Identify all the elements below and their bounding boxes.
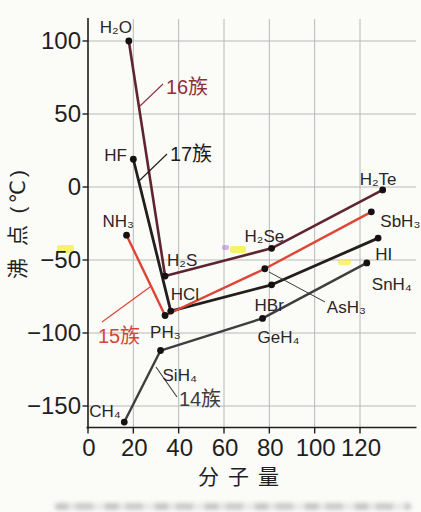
data-point-ch4 bbox=[121, 419, 128, 426]
y-tick-label--100: −100 bbox=[27, 319, 81, 346]
y-tick-label--50: −50 bbox=[40, 246, 81, 273]
group-15-leader bbox=[102, 287, 150, 322]
x-tick-label-80: 80 bbox=[257, 434, 284, 461]
group-16-leader bbox=[140, 84, 163, 106]
point-label-ash3: AsH₃ bbox=[327, 298, 366, 317]
y-tick-label-100: 100 bbox=[41, 27, 81, 54]
textbook-figure-page: 16族17族15族14族CH₄SiH₄GeH₄SnH₄NH₃PH₃AsH₃SbH… bbox=[0, 0, 421, 512]
data-point-ash3 bbox=[261, 265, 268, 272]
data-point-geh4 bbox=[259, 315, 266, 322]
point-label-geh4: GeH₄ bbox=[258, 328, 300, 347]
axes: 100500−50−100−150020406080100120 bbox=[27, 18, 417, 461]
point-label-h2te: H₂Te bbox=[360, 170, 397, 189]
data-point-hbr bbox=[268, 281, 275, 288]
y-tick-label--150: −150 bbox=[27, 392, 81, 419]
point-label-hbr: HBr bbox=[255, 296, 285, 315]
point-label-sbh3: SbH₃ bbox=[380, 212, 420, 231]
group-16-label: 16族 bbox=[166, 76, 208, 98]
scan-artifacts bbox=[57, 245, 351, 265]
point-label-h2s: H₂S bbox=[167, 251, 197, 270]
y-tick-label-0: 0 bbox=[68, 173, 81, 200]
x-tick-label-0: 0 bbox=[82, 434, 95, 461]
data-point-ph3 bbox=[162, 312, 169, 319]
group-17-leader bbox=[139, 154, 167, 181]
y-axis-title: 沸 点 (℃) bbox=[6, 167, 29, 279]
group-15-label: 15族 bbox=[98, 325, 140, 347]
data-point-nh3 bbox=[123, 232, 130, 239]
x-tick-label-100: 100 bbox=[296, 434, 336, 461]
point-label-snh4: SnH₄ bbox=[372, 275, 412, 294]
point-label-ph3: PH₃ bbox=[150, 323, 181, 342]
point-label-sih4: SiH₄ bbox=[163, 366, 197, 385]
grid-lines bbox=[88, 19, 416, 428]
cropped-caption-band bbox=[55, 503, 411, 510]
x-axis-title: 分子量 bbox=[198, 465, 288, 488]
group-17-label: 17族 bbox=[170, 143, 212, 165]
boiling-point-vs-molecular-weight-chart: 16族17族15族14族CH₄SiH₄GeH₄SnH₄NH₃PH₃AsH₃SbH… bbox=[0, 0, 421, 512]
point-label-h2se: H₂Se bbox=[245, 227, 285, 246]
x-tick-label-60: 60 bbox=[212, 434, 239, 461]
data-point-h2s bbox=[162, 273, 169, 280]
x-tick-label-120: 120 bbox=[341, 434, 381, 461]
data-point-sih4 bbox=[157, 347, 164, 354]
scan-speck-2 bbox=[338, 259, 351, 265]
data-point-hcl bbox=[167, 308, 174, 315]
y-tick-label-50: 50 bbox=[54, 100, 81, 127]
scan-speck-3 bbox=[222, 245, 229, 250]
point-label-hf: HF bbox=[104, 146, 127, 165]
data-point-hf bbox=[130, 156, 137, 163]
group-14-label: 14族 bbox=[179, 388, 221, 410]
data-point-hi bbox=[375, 235, 382, 242]
x-tick-label-20: 20 bbox=[121, 434, 148, 461]
series-line-group-14 bbox=[124, 263, 367, 422]
group-annotations: 16族17族15族14族 bbox=[98, 76, 325, 410]
point-label-h2o: H₂O bbox=[100, 18, 132, 37]
x-tick-label-40: 40 bbox=[166, 434, 193, 461]
point-label-nh3: NH₃ bbox=[103, 212, 134, 231]
data-points: CH₄SiH₄GeH₄SnH₄NH₃PH₃AsH₃SbH₃H₂OH₂SH₂SeH… bbox=[89, 18, 420, 425]
data-point-h2o bbox=[125, 38, 132, 45]
point-label-ch4: CH₄ bbox=[89, 402, 121, 421]
scan-speck-1 bbox=[230, 246, 246, 253]
point-label-hcl: HCl bbox=[171, 285, 199, 304]
data-point-sbh3 bbox=[368, 208, 375, 215]
point-label-hi: HI bbox=[375, 245, 392, 264]
data-point-snh4 bbox=[363, 260, 370, 267]
